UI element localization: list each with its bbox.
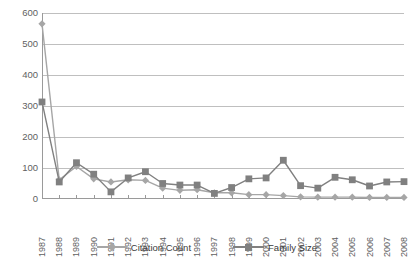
square-marker-icon — [125, 175, 132, 182]
legend-line-icon — [251, 246, 264, 248]
square-marker-icon — [56, 179, 63, 186]
square-marker-icon — [73, 159, 80, 166]
diamond-marker-icon — [108, 243, 116, 251]
diamond-marker-icon — [314, 194, 321, 201]
square-marker-icon — [332, 174, 339, 181]
y-tick-label: 0 — [2, 194, 38, 204]
diamond-marker-icon — [349, 194, 356, 201]
y-tick-label: 200 — [2, 132, 38, 142]
square-marker-icon — [366, 183, 373, 190]
square-marker-icon — [245, 175, 252, 182]
square-marker-icon — [228, 184, 235, 191]
diamond-marker-icon — [245, 191, 252, 198]
y-axis-labels: 0100200300400500600 — [0, 13, 38, 199]
y-tick-label: 100 — [2, 163, 38, 173]
diamond-marker-icon — [107, 178, 114, 185]
diamond-marker-icon — [331, 194, 338, 201]
diamond-marker-icon — [280, 192, 287, 199]
y-tick-label: 400 — [2, 70, 38, 80]
square-marker-icon — [383, 179, 390, 186]
legend-label: Citation Count — [131, 242, 191, 253]
square-marker-icon — [280, 157, 287, 164]
diamond-marker-icon — [366, 194, 373, 201]
square-marker-icon — [108, 188, 115, 195]
square-marker-icon — [142, 168, 149, 175]
y-tick-label: 600 — [2, 8, 38, 18]
diamond-marker-icon — [297, 193, 304, 200]
diamond-marker-icon — [400, 194, 407, 201]
plot-area — [42, 13, 404, 199]
diamond-marker-icon — [262, 191, 269, 198]
square-marker-icon — [314, 185, 321, 192]
legend-item-citation-count[interactable]: Citation Count — [97, 242, 191, 253]
square-marker-icon — [401, 178, 408, 185]
square-marker-icon — [297, 182, 304, 189]
y-tick-label: 500 — [2, 39, 38, 49]
chart-legend: Citation Count Family Size — [0, 238, 414, 256]
diamond-marker-icon — [142, 177, 149, 184]
square-marker-icon — [39, 99, 46, 106]
x-axis-labels: 1987198819891990199119921993199419951996… — [42, 201, 404, 237]
square-marker-icon — [194, 182, 201, 189]
square-marker-icon — [349, 176, 356, 183]
square-marker-icon — [177, 182, 184, 189]
series-layer — [42, 13, 404, 199]
square-marker-icon — [263, 175, 270, 182]
legend-item-family-size[interactable]: Family Size — [233, 242, 317, 253]
diamond-marker-icon — [38, 20, 45, 27]
y-tick-label: 300 — [2, 101, 38, 111]
diamond-marker-icon — [383, 194, 390, 201]
square-marker-icon — [90, 171, 97, 178]
chart-container: 0100200300400500600 19871988198919901991… — [0, 0, 414, 259]
square-marker-icon — [159, 180, 166, 187]
legend-label: Family Size — [268, 242, 317, 253]
square-marker-icon — [211, 190, 218, 197]
